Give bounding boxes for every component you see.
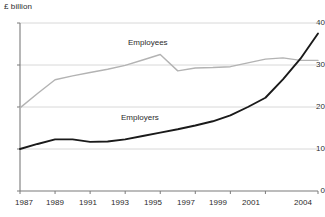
plot-area	[0, 0, 325, 217]
series-line-employers	[20, 34, 318, 150]
line-chart: £ billion 40 30 20 10 0 1987 1989 1991 1…	[0, 0, 325, 217]
series-line-employees	[20, 55, 318, 108]
